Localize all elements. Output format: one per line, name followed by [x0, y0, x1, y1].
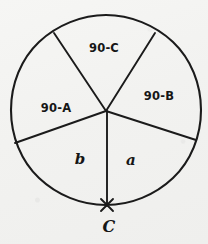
radius-left — [15, 111, 106, 143]
radius-right — [106, 111, 196, 140]
vertex-label-c: C — [103, 217, 116, 236]
sector-label-side-b: b — [75, 150, 86, 168]
sector-label-angle-b: 90-B — [144, 89, 174, 103]
sector-label-angle-a: 90-A — [41, 101, 71, 115]
sector-label-side-a: a — [126, 151, 136, 169]
sector-label-angle-c: 90-C — [89, 41, 119, 55]
circle-sector-diagram — [0, 0, 208, 244]
figure-canvas: 90-C 90-B 90-A b a C — [0, 0, 208, 244]
